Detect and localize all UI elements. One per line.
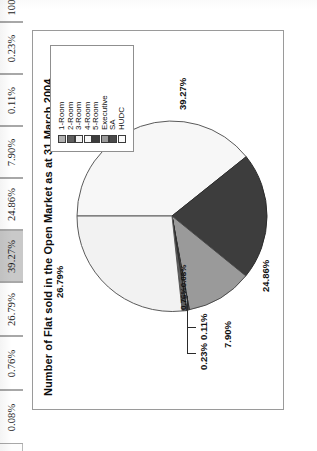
legend-label: HUDC [118, 107, 126, 130]
sheet-cell-value: 0.76% [6, 349, 17, 377]
leader-line-tick-2 [187, 327, 196, 328]
sheet-cell[interactable]: 0.76% [0, 336, 23, 390]
pie-label-cluster-overlap: 0.76%0.08% [179, 265, 188, 310]
sheet-cell[interactable]: 0.23% [0, 22, 23, 74]
sheet-cell-value: 0.08% [6, 403, 17, 431]
legend-swatch-icon [67, 135, 75, 143]
sheet-cell[interactable]: 26.79% [0, 282, 23, 336]
sheet-cell-value: 0.11% [6, 86, 17, 113]
legend-item-3-room[interactable]: 3-Room [75, 54, 83, 143]
sheet-cell[interactable]: 7.90% [0, 126, 23, 178]
legend-item-hudc[interactable]: HUDC [118, 54, 126, 143]
pie-label-0-11: 0.11% [198, 314, 209, 340]
sheet-cell-value: 24.86% [6, 188, 17, 221]
pie-label-0-23: 0.23% [198, 343, 209, 370]
legend-label: 1-Room [58, 102, 66, 130]
spreadsheet-column[interactable]: 100 0.23% 0.11% 7.90% 24.86% 39.27% 26.7… [0, 0, 23, 451]
legend-swatch-icon [58, 135, 66, 143]
scanned-page: 100 0.23% 0.11% 7.90% 24.86% 39.27% 26.7… [0, 0, 317, 451]
legend-item-1-room[interactable]: 1-Room [58, 54, 66, 143]
legend-swatch-icon [101, 135, 109, 143]
sheet-cell-value: 0.23% [6, 34, 17, 62]
pie-label-7-90: 7.90% [222, 321, 233, 348]
sheet-cell-value: 100 [6, 0, 17, 15]
chart-legend[interactable]: 1-Room 2-Room 3-Room 4-Room 5-Room [50, 45, 134, 152]
legend-list: 1-Room 2-Room 3-Room 4-Room 5-Room [58, 54, 126, 143]
chart-object[interactable]: Number of Flat sold in the Open Market a… [32, 30, 284, 410]
sheet-cell[interactable]: 24.86% [0, 178, 23, 230]
sheet-cell[interactable]: 0.11% [0, 74, 23, 126]
legend-label: 3-Room [75, 102, 83, 130]
pie-label-26-79: 26.79% [54, 266, 65, 298]
leader-line-tick-1 [187, 353, 196, 354]
legend-swatch-icon [75, 135, 83, 143]
legend-swatch-icon [84, 135, 92, 143]
legend-swatch-icon [118, 135, 126, 143]
sheet-cell-value: 26.79% [6, 293, 17, 326]
pie-label-24-86: 24.86% [260, 260, 271, 292]
sheet-cell[interactable]: 0.08% [0, 390, 23, 444]
sheet-cell-selected[interactable]: 39.27% [0, 230, 23, 282]
sheet-cell[interactable]: 100 [0, 0, 23, 22]
legend-swatch-icon [92, 135, 100, 143]
sheet-cell-value: 7.90% [6, 138, 17, 166]
legend-swatch-icon [109, 135, 117, 143]
pie-label-39-27: 39.27% [177, 78, 188, 110]
sheet-cell-value: 39.27% [6, 240, 17, 273]
pie-slice-3-room[interactable] [77, 216, 182, 311]
